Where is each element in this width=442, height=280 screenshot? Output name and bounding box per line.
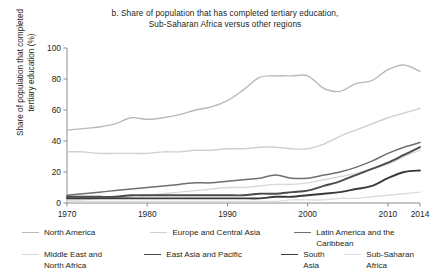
y-tick-label-80: 80 [52, 74, 62, 84]
y-tick-label-60: 60 [52, 105, 62, 115]
legend-item-middle-east-and-north-africa[interactable]: Middle East and North Africa [22, 250, 136, 271]
x-tick-label-2010: 2010 [379, 209, 398, 219]
x-tick-label-2000: 2000 [298, 209, 317, 219]
chart-plot-area: 020406080100 197019801990200020102014 [0, 0, 442, 225]
legend-swatch-south-asia [281, 254, 298, 255]
legend-swatch-sub-saharan-africa [344, 254, 361, 255]
legend-label-sub-saharan-africa: Sub-Saharan Africa [366, 250, 428, 271]
x-tick-label-2014: 2014 [411, 209, 430, 219]
legend-swatch-middle-east-and-north-africa [22, 254, 39, 255]
legend-label-mena-line-1: Middle East and [44, 250, 102, 259]
axis-lines [64, 48, 421, 207]
legend-item-latin-america-and-the-caribbean[interactable]: Latin America and the Caribbean [294, 228, 428, 249]
legend-label-south-asia: South Asia [303, 250, 336, 271]
series-line-north-america [67, 65, 420, 130]
legend-row-1: North America Europe and Central Asia La… [22, 228, 436, 249]
y-tick-labels: 020406080100 [47, 43, 61, 208]
legend-item-europe-and-central-asia[interactable]: Europe and Central Asia [150, 228, 286, 239]
legend-label-mena-line-2: North Africa [44, 261, 102, 272]
series-line-europe-and-central-asia [67, 108, 420, 153]
legend-swatch-east-asia-and-pacific [144, 254, 161, 255]
legend-label-latin-america-and-the-caribbean: Latin America and the Caribbean [316, 228, 428, 249]
y-tick-label-100: 100 [47, 43, 61, 53]
legend-item-sub-saharan-africa[interactable]: Sub-Saharan Africa [344, 250, 428, 271]
legend-label-north-america: North America [44, 228, 95, 239]
y-tick-label-40: 40 [52, 136, 62, 146]
legend-item-north-america[interactable]: North America [22, 228, 142, 239]
legend-label-east-asia-and-pacific: East Asia and Pacific [166, 250, 242, 261]
legend-swatch-europe-and-central-asia [150, 232, 167, 233]
legend-item-south-asia[interactable]: South Asia [281, 250, 336, 271]
x-tick-labels: 197019801990200020102014 [58, 209, 430, 219]
legend-item-east-asia-and-pacific[interactable]: East Asia and Pacific [144, 250, 273, 261]
legend-label-middle-east-and-north-africa: Middle East and North Africa [44, 250, 102, 271]
x-tick-label-1990: 1990 [218, 209, 237, 219]
legend-row-2: Middle East and North Africa East Asia a… [22, 250, 436, 271]
y-tick-label-20: 20 [52, 167, 62, 177]
legend-swatch-north-america [22, 232, 39, 233]
chart-legend: North America Europe and Central Asia La… [22, 228, 436, 272]
y-tick-label-0: 0 [56, 198, 61, 208]
legend-swatch-latin-america-and-the-caribbean [294, 232, 311, 233]
data-series-lines [67, 65, 420, 202]
x-tick-label-1980: 1980 [138, 209, 157, 219]
legend-label-europe-and-central-asia: Europe and Central Asia [172, 228, 260, 239]
series-line-middle-east-and-north-africa [67, 150, 420, 200]
series-line-south-asia [67, 170, 420, 198]
x-tick-label-1970: 1970 [58, 209, 77, 219]
figure-panel: b. Share of population that has complete… [0, 0, 442, 280]
